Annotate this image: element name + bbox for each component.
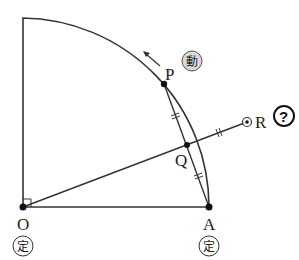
label-O: O — [17, 215, 29, 234]
segment-OR — [23, 122, 247, 207]
motion-arrow — [146, 54, 160, 66]
badge-moving: 動 — [182, 51, 202, 71]
badge-fixed-O: 定 — [13, 236, 33, 256]
svg-text:定: 定 — [17, 239, 29, 254]
svg-text:?: ? — [279, 108, 288, 125]
badge-fixed-A: 定 — [199, 236, 219, 256]
label-Q: Q — [175, 151, 187, 170]
quarter-arc — [23, 18, 209, 207]
svg-text:定: 定 — [203, 239, 215, 254]
label-R: R — [255, 113, 267, 132]
svg-text:動: 動 — [186, 55, 198, 69]
badge-unknown-R: ? — [274, 106, 294, 126]
label-P: P — [165, 65, 174, 84]
point-O — [20, 204, 27, 211]
label-A: A — [203, 215, 216, 234]
geometry-diagram: P Q R O A 動 定 定 ? — [0, 0, 299, 260]
point-Q — [184, 142, 190, 148]
point-A — [206, 204, 213, 211]
